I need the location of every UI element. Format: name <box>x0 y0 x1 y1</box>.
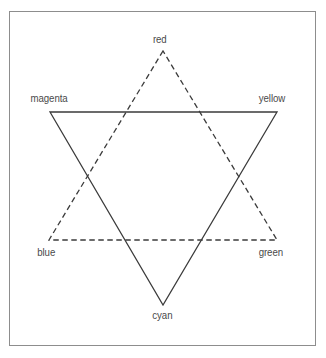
figure-root: red magenta yellow blue green cyan <box>0 0 326 358</box>
vertex-label-cyan: cyan <box>152 309 172 321</box>
vertex-label-red: red <box>153 33 167 45</box>
vertex-label-yellow: yellow <box>259 92 285 104</box>
vertex-label-blue: blue <box>37 246 55 258</box>
vertex-label-green: green <box>259 246 283 258</box>
star-diagram-svg <box>0 0 326 358</box>
vertex-label-magenta: magenta <box>31 92 68 104</box>
subtractive-triangle-shape <box>50 112 277 305</box>
additive-triangle-shape <box>49 51 277 240</box>
